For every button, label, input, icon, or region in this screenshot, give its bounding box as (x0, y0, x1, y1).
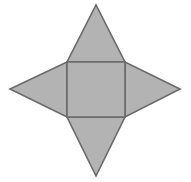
square-pyramid-net-figure (0, 0, 191, 182)
base-square-face (67, 62, 125, 117)
